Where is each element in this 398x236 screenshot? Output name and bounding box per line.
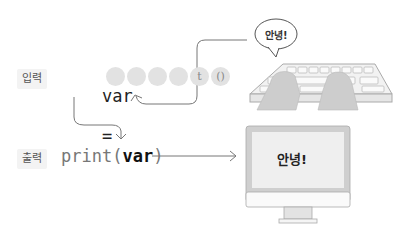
function-char-circle: u	[169, 67, 188, 86]
function-char-circle: ()	[211, 67, 230, 86]
function-char-circle: p	[148, 67, 167, 86]
function-char-circle: n	[127, 67, 146, 86]
keyboard-icon	[250, 64, 392, 110]
monitor-screen-text: 안녕!	[277, 149, 307, 168]
print-arg: var	[122, 146, 153, 166]
print-suffix: )	[153, 146, 163, 166]
diagram-lines	[0, 0, 398, 236]
output-label: 출력	[17, 149, 47, 169]
input-equals: =	[102, 126, 112, 146]
function-char-circle: t	[190, 67, 209, 86]
input-label: 입력	[17, 69, 47, 89]
speech-bubble-text: 안녕!	[265, 27, 288, 42]
input-var: var	[102, 86, 133, 106]
print-prefix: print(	[61, 146, 122, 166]
output-code: print(var)	[61, 146, 163, 166]
function-char-circle: i	[106, 67, 125, 86]
monitor-icon	[246, 126, 350, 223]
